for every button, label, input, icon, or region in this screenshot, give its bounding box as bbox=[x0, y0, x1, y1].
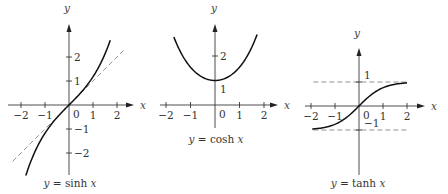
x-tick-label: 1 bbox=[90, 109, 97, 121]
x-axis-label: x bbox=[140, 99, 146, 111]
y-tick-label: 1 bbox=[364, 69, 371, 81]
y-axis-label: y bbox=[63, 2, 71, 14]
y-axis-arrow-icon bbox=[67, 24, 72, 32]
origin-label: 0 bbox=[73, 108, 80, 120]
x-tick-label: 2 bbox=[114, 109, 121, 121]
cosh-plot: xy−2−112012y = cosh x bbox=[158, 2, 290, 145]
x-tick-label: 1 bbox=[380, 110, 387, 122]
x-axis-arrow-icon bbox=[270, 103, 278, 108]
x-tick-label: −2 bbox=[158, 109, 173, 121]
x-tick-label: −1 bbox=[327, 110, 342, 122]
x-tick-label: −1 bbox=[37, 109, 52, 121]
y-tick-label: −1 bbox=[364, 117, 379, 129]
hyperbolic-functions-figure: xy−2−1120−2−112y = sinh x xy−2−112012y =… bbox=[0, 0, 448, 194]
origin-label: 0 bbox=[219, 108, 226, 120]
plot-caption: y = cosh x bbox=[187, 133, 243, 145]
y-axis-arrow-icon bbox=[213, 24, 218, 32]
plot-caption: y = tanh x bbox=[330, 177, 386, 189]
x-axis-arrow-icon bbox=[126, 103, 134, 108]
x-axis-label: x bbox=[284, 99, 290, 111]
y-tick-label: −1 bbox=[74, 123, 89, 135]
y-tick-label: −2 bbox=[74, 147, 89, 159]
sinh-curve bbox=[26, 40, 110, 175]
y-tick-label: 1 bbox=[220, 83, 227, 95]
x-tick-label: 1 bbox=[236, 109, 243, 121]
x-tick-label: 2 bbox=[404, 110, 411, 122]
x-tick-label: −2 bbox=[303, 110, 318, 122]
x-tick-label: −1 bbox=[183, 109, 198, 121]
x-axis-arrow-icon bbox=[417, 104, 425, 109]
cosh-curve bbox=[174, 34, 257, 80]
x-tick-label: −2 bbox=[13, 109, 28, 121]
y-axis-arrow-icon bbox=[357, 48, 362, 56]
x-axis-label: x bbox=[431, 100, 437, 112]
sinh-plot: xy−2−1120−2−112y = sinh x bbox=[8, 2, 146, 189]
tanh-plot: xy−2−11201−1y = tanh x bbox=[303, 27, 437, 189]
y-tick-label: 1 bbox=[74, 75, 81, 87]
x-tick-label: 2 bbox=[261, 109, 268, 121]
y-tick-label: 2 bbox=[220, 50, 227, 62]
y-axis-label: y bbox=[353, 27, 361, 39]
y-axis-label: y bbox=[210, 2, 218, 14]
plot-caption: y = sinh x bbox=[43, 177, 97, 189]
y-tick-label: 2 bbox=[74, 51, 81, 63]
